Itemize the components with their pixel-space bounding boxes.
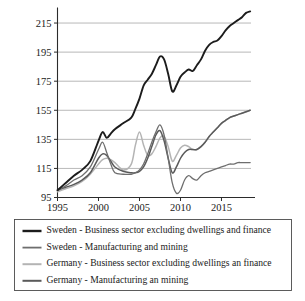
y-axis-tick-labels: 95115135155175195215 bbox=[36, 18, 52, 203]
series-line-1 bbox=[58, 11, 251, 190]
x-axis-tick-labels: 19952000200520102015 bbox=[47, 202, 232, 213]
chart-axes bbox=[54, 8, 255, 202]
legend-label-2: Sweden - Manufacturing and mining bbox=[47, 241, 188, 252]
legend-label-4: Germany - Manufacturing an mining bbox=[47, 274, 189, 285]
chart-svg: 95115135155175195215 1995200020052010201… bbox=[0, 0, 305, 301]
y-tick-label: 215 bbox=[36, 18, 52, 29]
chart-legend: Sweden - Business sector excluding dwell… bbox=[15, 220, 292, 291]
series-line-2 bbox=[58, 125, 251, 194]
y-tick-label: 175 bbox=[36, 76, 52, 87]
y-tick-label: 195 bbox=[36, 47, 52, 58]
y-tick-label: 115 bbox=[36, 163, 51, 174]
x-tick-label: 2000 bbox=[88, 202, 109, 213]
series-line-3 bbox=[58, 110, 251, 191]
y-tick-label: 135 bbox=[36, 134, 52, 145]
line-chart-figure: 95115135155175195215 1995200020052010201… bbox=[0, 0, 305, 301]
x-tick-label: 2005 bbox=[129, 202, 150, 213]
x-tick-label: 1995 bbox=[47, 202, 68, 213]
legend-label-3: Germany - Business sector excluding dwel… bbox=[47, 257, 272, 268]
gridlines bbox=[58, 23, 252, 168]
data-series bbox=[58, 11, 251, 193]
x-tick-label: 2015 bbox=[211, 202, 232, 213]
legend-label-1: Sweden - Business sector excluding dwell… bbox=[47, 224, 272, 235]
x-tick-label: 2010 bbox=[170, 202, 191, 213]
y-tick-label: 155 bbox=[36, 105, 52, 116]
